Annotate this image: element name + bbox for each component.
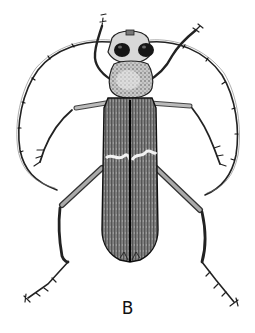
mandibles	[126, 30, 134, 35]
pronotum	[109, 61, 153, 98]
eye-left	[114, 43, 130, 57]
elytra	[102, 98, 158, 262]
midleg-right	[150, 103, 226, 166]
figure-label: B	[0, 298, 255, 318]
hindleg-left	[24, 168, 102, 302]
midleg-left	[34, 103, 106, 166]
beetle-illustration	[0, 0, 255, 333]
eye-right	[138, 43, 154, 57]
foreleg-right	[146, 24, 203, 82]
hindleg-right	[156, 168, 238, 306]
head	[108, 30, 154, 63]
